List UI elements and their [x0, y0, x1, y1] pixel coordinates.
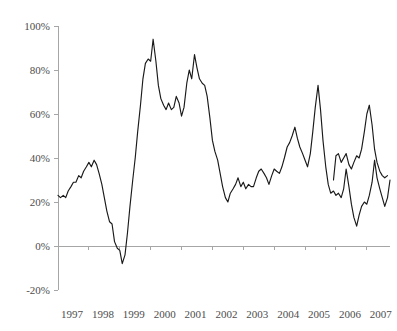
y-tick-label: 40%	[30, 152, 50, 164]
x-tick-label: 1998	[92, 308, 115, 320]
x-tick-label: 1997	[61, 308, 84, 320]
x-tick-label: 2003	[246, 308, 269, 320]
plot-area	[58, 39, 390, 263]
y-tick-label: 100%	[24, 20, 50, 32]
y-tick-label: 0%	[35, 240, 50, 252]
x-tick-label: 2002	[215, 308, 237, 320]
y-tick-label: -20%	[26, 284, 50, 296]
line-chart: 100%80%60%40%20%0%-20% 19971998199920002…	[0, 0, 397, 331]
chart-canvas: 100%80%60%40%20%0%-20% 19971998199920002…	[0, 0, 397, 331]
x-tick-label: 1999	[123, 308, 146, 320]
x-tick-label: 2006	[339, 308, 362, 320]
x-axis	[58, 246, 390, 250]
y-tick-label: 80%	[30, 64, 50, 76]
x-axis-tick-labels: 1997199819992000200120022003200420052006…	[61, 308, 392, 320]
data-line	[333, 105, 387, 180]
x-tick-label: 2005	[308, 308, 331, 320]
x-tick-label: 2004	[277, 308, 300, 320]
y-tick-label: 20%	[30, 196, 50, 208]
x-tick-label: 2007	[370, 308, 393, 320]
y-axis: 100%80%60%40%20%0%-20%	[24, 20, 58, 296]
x-tick-label: 2001	[185, 308, 207, 320]
y-tick-label: 60%	[30, 108, 50, 120]
x-tick-label: 2000	[154, 308, 177, 320]
data-line	[58, 39, 390, 263]
